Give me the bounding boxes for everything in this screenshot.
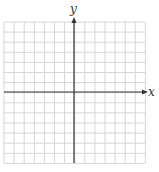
grid-lines — [4, 22, 145, 163]
x-axis-label: x — [148, 86, 155, 98]
y-axis-arrow-icon — [72, 17, 77, 23]
axes — [4, 17, 148, 163]
coordinate-plane — [0, 0, 159, 172]
y-axis-label: y — [70, 3, 77, 15]
